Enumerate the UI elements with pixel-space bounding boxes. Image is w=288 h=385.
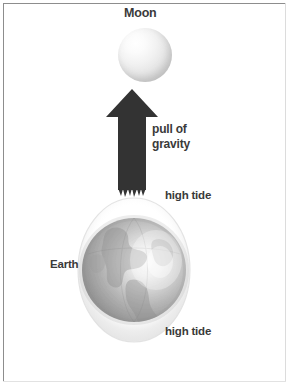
pull-of-gravity-label: pull of gravity	[152, 122, 190, 151]
frame-border-right	[285, 3, 286, 382]
frame-border-top	[3, 3, 286, 4]
earth-group	[68, 196, 200, 344]
high-tide-bottom-label: high tide	[165, 324, 211, 338]
pull-of-gravity-line-2: gravity	[152, 137, 190, 152]
frame-border-bottom	[3, 381, 286, 382]
tides-diagram: Moon pull of gravity high tide	[0, 0, 288, 385]
frame-border-left	[3, 3, 4, 382]
earth-highlight-core	[147, 246, 173, 278]
moon-label: Moon	[124, 6, 157, 21]
pull-of-gravity-line-1: pull of	[152, 122, 190, 137]
earth-label: Earth	[50, 257, 78, 271]
moon-sphere	[118, 28, 172, 82]
